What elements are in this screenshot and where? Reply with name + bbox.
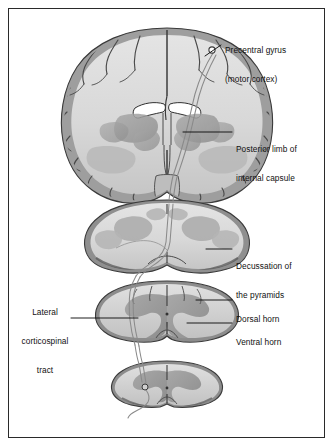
label-ventral-horn-line1: Ventral horn: [236, 338, 281, 348]
medulla-section: [85, 200, 250, 273]
label-lateral-corticospinal-tract-line1: Lateral: [17, 308, 73, 318]
label-decussation-line1: Decussation of: [236, 262, 292, 272]
label-posterior-limb-line2: internal capsule: [236, 174, 297, 184]
label-lateral-corticospinal-tract: Lateral corticospinal tract: [17, 289, 73, 395]
label-lateral-corticospinal-tract-line3: tract: [17, 366, 73, 376]
label-lateral-corticospinal-tract-line2: corticospinal: [17, 337, 73, 347]
lower-motor-neuron-soma: [142, 384, 148, 390]
label-posterior-limb-line1: Posterior limb of: [236, 145, 297, 155]
label-precentral-gyrus-line1: Precentral gyrus: [225, 46, 286, 56]
anatomy-figure: Precentral gyrus (motor cortex) Posterio…: [0, 0, 334, 447]
label-precentral-gyrus-line2: (motor cortex): [225, 75, 286, 85]
cervical-cord-section: [96, 281, 239, 343]
lumbar-cord-section: [111, 361, 222, 408]
label-posterior-limb: Posterior limb of internal capsule: [236, 126, 297, 203]
label-ventral-horn: Ventral horn: [236, 319, 281, 367]
label-precentral-gyrus: Precentral gyrus (motor cortex): [225, 27, 286, 104]
